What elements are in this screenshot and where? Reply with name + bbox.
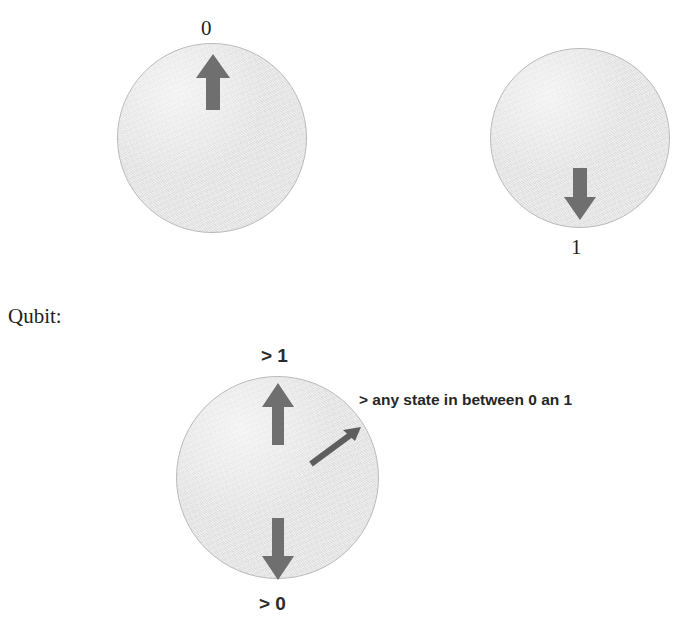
qubit-up-arrow-icon [259,381,297,447]
qubit-down-arrow-icon [259,516,297,582]
bit-one-down-arrow-icon [562,166,598,222]
qubit-bottom-state-label: > 0 [259,594,286,613]
qubit-diagonal-superposition-arrow-icon [305,422,365,470]
qubit-top-state-label: > 1 [261,346,288,365]
superposition-annotation: > any state in between 0 an 1 [359,392,572,408]
qubit-heading: Qubit: [8,306,62,327]
bit-zero-up-arrow-icon [193,52,233,112]
figure-canvas: 0 1 Qubit: > 1 > 0 > any state in betwee… [0,0,690,617]
bit-zero-label: 0 [201,18,212,39]
bit-one-label: 1 [571,237,582,258]
